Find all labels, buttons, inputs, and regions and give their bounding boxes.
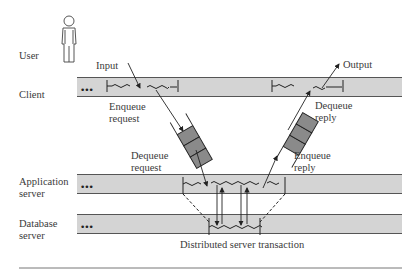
input-label: Input [96,60,118,72]
output-label: Output [343,59,372,71]
caption: Distributed server transaction [180,239,304,250]
enqueue-request-label-1: Enqueue [109,101,146,113]
client-input-transaction [107,80,178,92]
diagram-graphics [0,0,419,273]
enqueue-request-label-2: request [109,113,139,125]
enqueue-reply-label-1: Enqueue [294,150,331,162]
client-output-transaction [272,80,343,92]
enqueue-reply-label-2: reply [294,162,316,174]
dequeue-reply-label-1: Dequeue [315,100,352,112]
app-server-transaction [183,177,285,194]
dequeue-request-label-1: Dequeue [131,150,168,162]
dequeue-request-label-2: request [131,162,161,174]
user-person-icon [62,16,76,62]
dequeue-reply-label-2: reply [315,112,337,124]
